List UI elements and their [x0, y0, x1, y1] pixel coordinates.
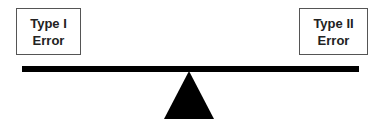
type-two-label-line2: Error: [313, 32, 353, 49]
fulcrum-triangle-icon: [164, 71, 214, 119]
type-one-label-line2: Error: [30, 32, 67, 49]
type-two-label-line1: Type II: [313, 15, 353, 32]
type-one-error-box: Type I Error: [16, 8, 81, 55]
type-one-label-line1: Type I: [30, 15, 67, 32]
type-two-error-box: Type II Error: [299, 8, 368, 55]
